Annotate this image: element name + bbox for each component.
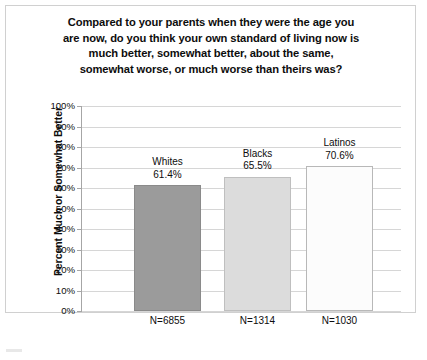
y-axis-tick-label: 50%	[37, 204, 75, 214]
chart-title-line-2: are now, do you think your own standard …	[36, 31, 386, 47]
chart-title-line-4: somewhat worse, or much worse than their…	[36, 62, 386, 78]
y-axis-tick-label: 0%	[37, 306, 75, 316]
plot-area: Whites61.4%Blacks65.5%Latinos70.6% N=685…	[81, 106, 401, 311]
y-axis-tick	[77, 311, 81, 312]
y-axis-tick	[77, 147, 81, 148]
y-axis-tick-label: 80%	[37, 142, 75, 152]
y-axis-tick	[77, 127, 81, 128]
y-axis-tick	[77, 168, 81, 169]
y-axis-tick-label: 40%	[37, 224, 75, 234]
y-axis-tick-label: 10%	[37, 286, 75, 296]
bar-label-whites: Whites61.4%	[122, 156, 213, 181]
chart-title-line-3: much better, somewhat better, about the …	[36, 46, 386, 62]
bar-label-blacks: Blacks65.5%	[212, 148, 303, 173]
y-axis-tick	[77, 291, 81, 292]
y-axis-tick	[77, 229, 81, 230]
y-axis-tick-label: 70%	[37, 163, 75, 173]
bar-value-label: 65.5%	[212, 160, 303, 173]
chart-frame: Compared to your parents when they were …	[5, 5, 416, 313]
y-axis-tick	[77, 250, 81, 251]
page-artifact	[6, 349, 22, 352]
sample-size-latinos: N=1030	[294, 315, 385, 326]
y-axis-tick-label: 100%	[37, 101, 75, 111]
y-axis-tick-label: 60%	[37, 183, 75, 193]
y-axis-tick	[77, 209, 81, 210]
bar-latinos[interactable]	[306, 166, 373, 311]
sample-size-whites: N=6855	[122, 315, 213, 326]
bar-category-label: Latinos	[294, 137, 385, 150]
gridline	[81, 127, 401, 128]
bar-whites[interactable]	[134, 185, 201, 311]
sample-size-blacks: N=1314	[212, 315, 303, 326]
bar-label-latinos: Latinos70.6%	[294, 137, 385, 162]
y-axis-tick	[77, 270, 81, 271]
y-axis-tick-label: 20%	[37, 265, 75, 275]
y-axis-tick-label: 90%	[37, 122, 75, 132]
y-axis-tick	[77, 188, 81, 189]
bar-value-label: 70.6%	[294, 150, 385, 163]
chart-title-line-1: Compared to your parents when they were …	[36, 15, 386, 31]
bar-blacks[interactable]	[224, 177, 291, 311]
gridline	[81, 106, 401, 107]
gridline	[81, 311, 401, 312]
y-axis-tick-label: 30%	[37, 245, 75, 255]
y-axis-tick-labels: 100%90%80%70%60%50%40%30%20%10%0%	[33, 106, 75, 311]
y-axis-tick	[77, 106, 81, 107]
bar-category-label: Whites	[122, 156, 213, 169]
chart-title: Compared to your parents when they were …	[36, 15, 386, 77]
bar-value-label: 61.4%	[122, 169, 213, 182]
bar-category-label: Blacks	[212, 148, 303, 161]
y-axis-line	[81, 106, 82, 312]
